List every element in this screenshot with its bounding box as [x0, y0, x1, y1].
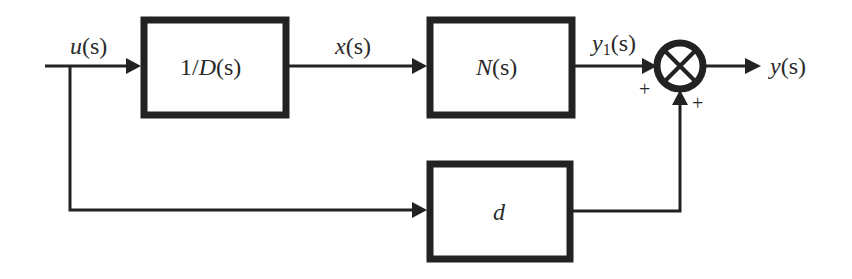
- label-y: y(s): [768, 53, 806, 79]
- label-x: x(s): [334, 33, 371, 59]
- label-inverse-d: 1/D(s): [180, 54, 241, 80]
- sign-plus-left: +: [639, 78, 650, 100]
- arrow-into-n: [412, 58, 427, 74]
- arrow-output: [745, 58, 761, 74]
- block-diagram: u(s) 1/D(s) x(s) N(s) y1(s) d + + y(s): [0, 0, 852, 279]
- label-y1: y1(s): [590, 30, 636, 58]
- arrow-into-inverse-d: [126, 58, 141, 74]
- summing-junction: [657, 43, 703, 89]
- label-u: u(s): [70, 33, 107, 59]
- d-output-wire: [572, 104, 680, 211]
- label-n: N(s): [475, 54, 517, 80]
- arrow-into-d: [412, 202, 427, 218]
- sign-plus-bottom: +: [692, 92, 703, 114]
- label-d: d: [493, 199, 506, 225]
